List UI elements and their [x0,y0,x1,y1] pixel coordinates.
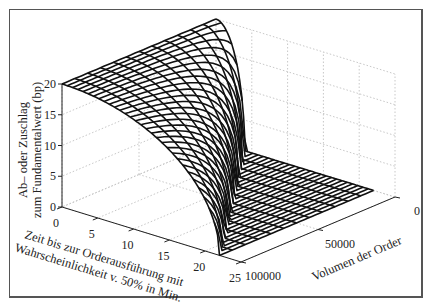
z-tick-label: 15 [44,108,56,122]
x-tick-label: 20 [193,260,205,274]
x-tick [129,229,134,231]
x-tick [236,262,241,264]
x-tick-label: 25 [229,271,241,285]
z-axis-label-line1: Ab– oder Zuschlag [16,101,30,198]
x-tick-label: 5 [89,227,95,241]
z-tick-label: 10 [44,139,56,153]
z-axis-label-line2: zum Fundamentalwert (bp) [30,82,44,218]
y-tick [318,230,323,231]
grid-line-back-horizontal [216,50,395,105]
y-tick-label: 0 [414,204,420,218]
surface-chart: 051015200510152025050000100000 Ab– oder … [0,0,435,308]
z-tick-label: 20 [44,77,56,91]
y-tick [241,262,246,263]
x-tick [164,240,169,242]
y-tick [395,197,400,198]
x-tick-label: 10 [122,238,134,252]
back-grid [62,19,395,262]
x-tick-label: 0 [53,216,59,230]
y-tick-label: 50000 [325,237,355,251]
grid-line-back-horizontal [216,19,395,74]
surface-mesh [62,19,374,255]
y-tick-label: 100000 [245,269,281,283]
z-tick-label: 0 [50,200,56,214]
x-tick [200,251,205,253]
z-tick-label: 5 [50,169,56,183]
y-axis-label: Volumen der Order [310,233,405,284]
x-tick-label: 15 [157,249,169,263]
x-tick [93,218,98,220]
